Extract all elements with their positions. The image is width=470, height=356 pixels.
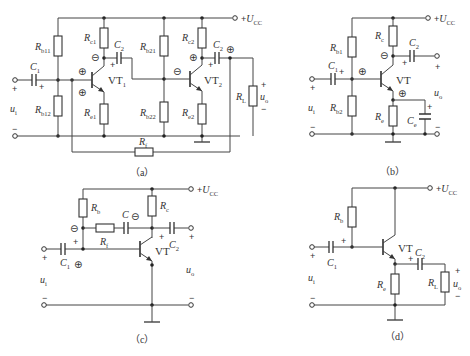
svg-text:++UUCC: ++UUCC xyxy=(241,13,262,26)
svg-text:+: + xyxy=(310,83,315,93)
circuit-figure: ++UUCC Rb11 Rb12 C1 + + ui − Rf VT1 xyxy=(0,0,470,356)
svg-text:uo: uo xyxy=(453,278,461,291)
svg-text:ui: ui xyxy=(308,272,315,285)
svg-text:C2: C2 xyxy=(169,239,179,252)
svg-text:Rc: Rc xyxy=(159,200,169,213)
svg-text:Rf: Rf xyxy=(99,236,109,249)
svg-text:+: + xyxy=(159,232,164,242)
svg-text:Rb: Rb xyxy=(90,202,100,215)
svg-text:+UCC: +UCC xyxy=(434,13,455,26)
capacitor-ce xyxy=(419,114,431,119)
svg-text:+: + xyxy=(427,102,432,112)
svg-text:−: − xyxy=(12,124,17,134)
svg-text:−: − xyxy=(310,293,315,303)
svg-text:⊖: ⊖ xyxy=(173,66,181,77)
svg-text:+UCC: +UCC xyxy=(197,184,218,197)
caption-d: （d） xyxy=(385,331,410,342)
svg-text:uo: uo xyxy=(260,91,268,104)
resistor-rf-c xyxy=(96,224,114,232)
svg-text:−: − xyxy=(310,122,315,132)
resistor-rc1 xyxy=(100,28,108,48)
circuit-a: ++UUCC Rb11 Rb12 C1 + + ui − Rf VT1 xyxy=(10,13,268,178)
resistor-rb12 xyxy=(54,96,62,116)
resistor-rl xyxy=(249,86,257,106)
resistor-rb22 xyxy=(160,102,168,122)
circuit-b: +UCC Rb1 Rb2 C1 + + ui − − ⊕ VT Rc xyxy=(308,13,455,177)
svg-text:+: + xyxy=(110,60,115,70)
resistor-rb1 xyxy=(348,37,356,57)
svg-text:RL: RL xyxy=(235,91,246,104)
svg-text:+: + xyxy=(339,67,344,77)
svg-text:Ce: Ce xyxy=(407,115,417,128)
svg-text:ui: ui xyxy=(308,102,315,115)
resistor-rb21 xyxy=(160,36,168,56)
svg-text:⊖: ⊖ xyxy=(131,211,139,222)
svg-text:+: + xyxy=(73,237,78,247)
transistor-vt1 xyxy=(92,58,104,100)
svg-text:Re: Re xyxy=(374,111,384,124)
svg-text:⊕: ⊕ xyxy=(226,44,234,55)
svg-text:Rb12: Rb12 xyxy=(34,104,51,117)
svg-text:Re2: Re2 xyxy=(181,107,194,120)
svg-text:VT: VT xyxy=(398,242,413,254)
resistor-rb-c xyxy=(79,199,87,217)
svg-text:C1: C1 xyxy=(60,257,70,270)
svg-text:Rc2: Rc2 xyxy=(181,32,194,45)
svg-text:⊕: ⊕ xyxy=(78,87,86,98)
svg-text:Rc1: Rc1 xyxy=(83,32,96,45)
svg-text:C2: C2 xyxy=(114,39,124,52)
svg-text:C2: C2 xyxy=(213,39,223,52)
svg-text:−: − xyxy=(455,291,460,301)
caption-b: （b） xyxy=(380,166,405,177)
resistor-re-b xyxy=(389,106,397,126)
input-terminal-a xyxy=(13,78,18,83)
svg-text:uo: uo xyxy=(186,264,194,277)
svg-text:+: + xyxy=(12,84,17,94)
svg-text:Rb: Rb xyxy=(333,211,343,224)
resistor-re2 xyxy=(198,104,206,124)
svg-text:+: + xyxy=(189,232,194,242)
svg-text:C2: C2 xyxy=(415,247,425,260)
caption-a: （a） xyxy=(130,167,154,178)
svg-text:+: + xyxy=(341,236,346,246)
svg-text:uo: uo xyxy=(434,87,442,100)
svg-text:⊕: ⊕ xyxy=(398,88,406,99)
svg-text:+: + xyxy=(42,253,47,263)
svg-text:⊕: ⊕ xyxy=(74,259,82,270)
resistor-rb-d xyxy=(348,207,356,227)
svg-text:VT: VT xyxy=(396,74,411,86)
svg-text:+: + xyxy=(261,80,266,90)
svg-text:−: − xyxy=(42,293,47,303)
circuit-c: +UCC Rb ⊖ Rf C ⊖ Rc C2 + + uo C1 ⊕ + + xyxy=(40,184,218,345)
svg-text:⊖: ⊖ xyxy=(91,52,99,63)
resistor-re1 xyxy=(100,104,108,124)
supply-terminal-a xyxy=(233,16,238,21)
svg-text:−: − xyxy=(435,122,440,132)
resistor-rb11 xyxy=(54,36,62,56)
svg-text:Re1: Re1 xyxy=(83,107,96,120)
resistor-rl-d xyxy=(441,272,449,292)
resistor-re-d xyxy=(391,274,399,294)
svg-text:C2: C2 xyxy=(409,37,419,50)
svg-text:+: + xyxy=(310,251,315,261)
svg-text:RL: RL xyxy=(427,277,438,290)
resistor-rb2 xyxy=(348,96,356,116)
svg-text:VT1: VT1 xyxy=(108,74,126,88)
transistor-vt2 xyxy=(190,58,202,100)
svg-text:⊖: ⊖ xyxy=(380,50,388,61)
svg-text:−: − xyxy=(261,104,266,114)
svg-text:Re: Re xyxy=(376,279,386,292)
svg-text:Rb11: Rb11 xyxy=(34,41,51,54)
svg-text:⊕: ⊕ xyxy=(78,66,86,77)
svg-text:ui: ui xyxy=(40,274,47,287)
svg-text:+: + xyxy=(435,62,440,72)
svg-text:Rb2: Rb2 xyxy=(329,102,343,115)
svg-text:C1: C1 xyxy=(328,60,338,73)
svg-text:Rb21: Rb21 xyxy=(139,41,156,54)
svg-text:C: C xyxy=(122,209,129,220)
transistor-vt-b xyxy=(381,56,393,100)
svg-text:ui: ui xyxy=(10,103,17,116)
svg-text:⊖: ⊖ xyxy=(70,223,78,234)
svg-text:Rc: Rc xyxy=(374,30,384,43)
svg-text:+: + xyxy=(208,60,213,70)
